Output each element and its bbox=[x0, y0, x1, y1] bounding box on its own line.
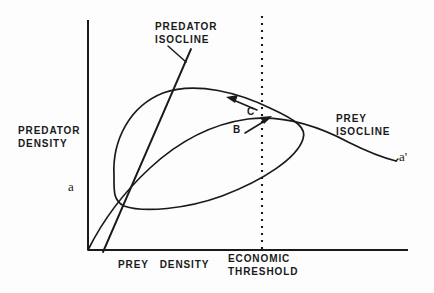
limit-cycle-loop bbox=[114, 88, 304, 209]
x-axis-label: PREY DENSITY bbox=[118, 258, 209, 271]
arrow-b-label: B bbox=[233, 123, 241, 136]
y-axis-label: PREDATOR DENSITY bbox=[18, 124, 80, 150]
prey-isocline-label: PREY ISOCLINE bbox=[336, 112, 390, 138]
point-a-label: a bbox=[68, 180, 74, 193]
population-dynamics-figure: PREDATOR DENSITY PREDATOR ISOCLINE PREY … bbox=[0, 0, 434, 293]
a-prime-leader bbox=[396, 159, 398, 161]
arrow-c-label: C bbox=[247, 105, 255, 118]
predator-isocline-label: PREDATOR ISOCLINE bbox=[155, 20, 217, 46]
economic-threshold-label: ECONOMIC THRESHOLD bbox=[228, 252, 298, 278]
point-a-prime-label: a' bbox=[399, 150, 407, 163]
predator-isocline-leader bbox=[168, 46, 186, 62]
